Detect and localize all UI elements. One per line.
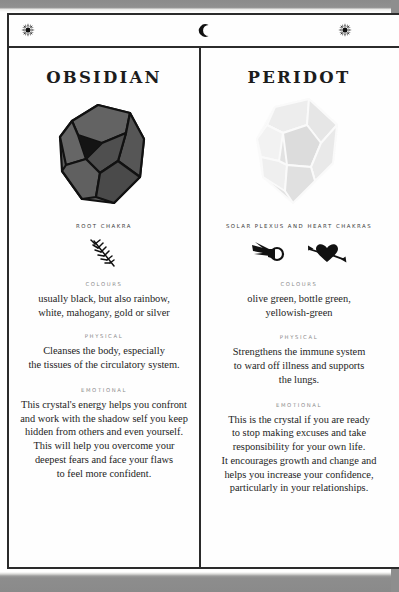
section-label: EMOTIONAL xyxy=(210,402,388,408)
card-columns: OBSIDIAN xyxy=(9,48,399,567)
obsidian-gem-illustration xyxy=(18,91,190,219)
section-physical: PHYSICAL Cleanses the body, especially t… xyxy=(18,333,190,371)
comet-flame-icon xyxy=(251,241,287,265)
heart-with-arrow-icon xyxy=(307,241,347,265)
section-label: PHYSICAL xyxy=(18,333,190,339)
section-colours: COLOURS olive green, bottle green, yello… xyxy=(210,281,388,319)
section-label: PHYSICAL xyxy=(210,334,388,340)
section-physical: PHYSICAL Strengthens the immune system t… xyxy=(210,334,388,386)
feather-sprig-icon xyxy=(89,237,119,269)
section-emotional: EMOTIONAL This is the crystal if you are… xyxy=(210,402,388,495)
peridot-gem-illustration xyxy=(210,91,388,219)
section-body: Cleanses the body, especially the tissue… xyxy=(18,344,190,371)
section-body: This crystal's energy helps you confront… xyxy=(18,398,190,480)
chakra-label-solar-plexus-heart: SOLAR PLEXUS AND HEART CHAKRAS xyxy=(210,221,388,231)
card-header-band xyxy=(9,15,399,48)
crystal-reference-card: OBSIDIAN xyxy=(7,13,399,569)
chakra-symbols-solar-heart xyxy=(210,231,388,275)
crystal-title-obsidian: OBSIDIAN xyxy=(18,68,190,87)
section-label: COLOURS xyxy=(210,281,388,287)
section-label: COLOURS xyxy=(18,281,190,287)
column-obsidian: OBSIDIAN xyxy=(9,48,201,567)
crystal-title-peridot: PERIDOT xyxy=(210,68,388,87)
chakra-label-root: ROOT CHAKRA xyxy=(18,221,190,231)
section-body: This is the crystal if you are ready to … xyxy=(210,413,388,495)
section-body: Strengthens the immune system to ward of… xyxy=(210,345,388,386)
section-label: EMOTIONAL xyxy=(18,387,190,393)
sunburst-icon xyxy=(338,23,354,39)
section-body: olive green, bottle green, yellowish-gre… xyxy=(210,292,388,319)
chakra-symbols-root xyxy=(18,231,190,275)
section-body: usually black, but also rainbow, white, … xyxy=(18,292,190,319)
section-emotional: EMOTIONAL This crystal's energy helps yo… xyxy=(18,387,190,480)
section-colours: COLOURS usually black, but also rainbow,… xyxy=(18,281,190,319)
column-peridot: PERIDOT xyxy=(201,48,397,567)
